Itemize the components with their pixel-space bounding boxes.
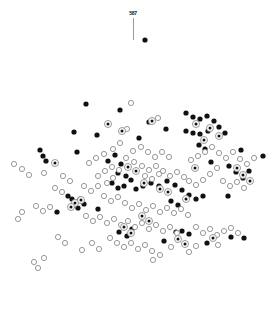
- data-point: [71, 129, 76, 134]
- data-point: [163, 126, 168, 131]
- data-point: [240, 172, 247, 179]
- data-point: [204, 240, 209, 245]
- data-point: [128, 100, 133, 105]
- data-point: [234, 165, 241, 172]
- data-point: [196, 142, 201, 147]
- data-point: [174, 230, 179, 235]
- data-point: [129, 205, 134, 210]
- data-point: [116, 167, 121, 172]
- data-point: [26, 172, 31, 177]
- data-point: [101, 193, 106, 198]
- data-point: [179, 228, 184, 233]
- data-point: [165, 189, 172, 196]
- data-point: [159, 149, 164, 154]
- data-point: [41, 255, 46, 260]
- data-point: [133, 186, 138, 191]
- data-point: [225, 193, 230, 198]
- data-point: [47, 204, 52, 209]
- data-point: [52, 185, 57, 190]
- data-point: [149, 176, 154, 181]
- data-point: [74, 149, 79, 154]
- data-point: [109, 180, 114, 185]
- data-point: [207, 226, 212, 231]
- data-point: [94, 132, 99, 137]
- data-point: [183, 196, 190, 203]
- data-point: [216, 133, 223, 140]
- data-point: [228, 234, 233, 239]
- data-point: [111, 216, 116, 221]
- data-point: [207, 171, 212, 176]
- data-point: [104, 220, 109, 225]
- data-point: [192, 165, 199, 172]
- annotation-label: 587: [129, 10, 137, 16]
- data-point: [128, 230, 135, 237]
- data-point: [179, 187, 184, 192]
- data-point: [68, 204, 75, 211]
- data-point: [166, 154, 171, 159]
- data-point: [193, 121, 200, 128]
- data-point: [235, 230, 240, 235]
- marker-layer: [11, 37, 265, 270]
- data-point: [153, 163, 158, 168]
- data-point: [31, 259, 36, 264]
- data-point: [67, 178, 72, 183]
- data-point: [79, 247, 84, 252]
- data-point: [223, 155, 228, 160]
- data-point: [175, 236, 182, 243]
- data-point: [35, 265, 40, 270]
- data-point: [96, 246, 101, 251]
- data-point: [142, 173, 147, 178]
- data-point: [136, 135, 141, 140]
- data-point: [215, 242, 220, 247]
- data-point: [247, 178, 254, 185]
- data-point: [89, 240, 94, 245]
- data-point: [156, 171, 161, 176]
- data-point: [190, 130, 195, 135]
- data-point: [183, 128, 188, 133]
- data-point: [83, 101, 88, 106]
- data-point: [19, 166, 24, 171]
- data-point: [211, 118, 216, 123]
- data-point: [121, 183, 126, 188]
- data-point: [204, 113, 209, 118]
- data-point: [153, 222, 158, 227]
- data-point: [95, 183, 100, 188]
- data-point: [78, 197, 85, 204]
- data-point: [174, 169, 179, 174]
- data-point: [119, 128, 126, 135]
- data-point: [182, 241, 189, 248]
- data-point: [125, 218, 130, 223]
- data-point: [110, 175, 115, 180]
- data-point: [146, 218, 153, 225]
- data-point: [228, 225, 233, 230]
- data-point: [86, 160, 91, 165]
- data-point: [93, 155, 98, 160]
- data-point: [146, 226, 151, 231]
- data-point: [222, 130, 227, 135]
- data-point: [183, 110, 188, 115]
- data-point: [190, 114, 195, 119]
- data-point: [161, 238, 166, 243]
- data-point: [114, 240, 119, 245]
- data-point: [193, 182, 198, 187]
- data-point: [133, 168, 140, 175]
- data-point: [207, 125, 214, 132]
- data-point: [11, 161, 16, 166]
- data-point: [123, 173, 128, 178]
- data-point: [128, 177, 133, 182]
- data-point: [186, 249, 191, 254]
- data-point: [149, 248, 154, 253]
- data-point: [246, 168, 251, 173]
- data-point: [97, 214, 102, 219]
- data-point: [104, 180, 109, 185]
- data-point: [128, 240, 133, 245]
- scatter-plot-canvas: [0, 0, 272, 314]
- data-point: [200, 230, 205, 235]
- data-point: [135, 246, 140, 251]
- data-point: [141, 180, 148, 187]
- data-point: [251, 155, 256, 160]
- series-filled: [37, 37, 265, 245]
- data-point: [157, 252, 162, 257]
- data-point: [181, 174, 186, 179]
- data-point: [197, 131, 202, 136]
